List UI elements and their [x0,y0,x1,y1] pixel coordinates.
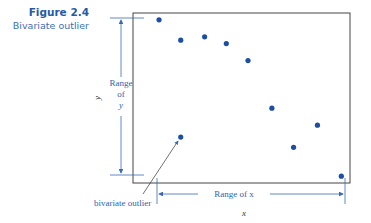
data-point [315,123,320,128]
scatter-diagram: Range of y y Range of x x bivariate outl… [0,0,371,223]
data-point [269,106,274,111]
range-x-label: Range of x [214,189,254,199]
y-axis-label: y [92,96,102,101]
data-point [178,38,183,43]
outlier-point [178,135,183,140]
data-point [156,17,161,22]
x-axis-label: x [241,208,246,218]
data-point [339,174,344,179]
data-point [245,58,250,63]
outlier-label: bivariate outlier [94,198,151,208]
range-y-label-2: of [117,89,125,99]
plot-frame [133,13,350,183]
range-y-label-3: y [118,100,123,110]
data-point [224,41,229,46]
data-point [202,34,207,39]
range-y-label-1: Range [110,78,133,88]
data-point [291,145,296,150]
outlier-pointer-arrow [143,141,178,194]
range-x-label-text: Range of x [214,189,254,199]
points-group [156,17,343,179]
